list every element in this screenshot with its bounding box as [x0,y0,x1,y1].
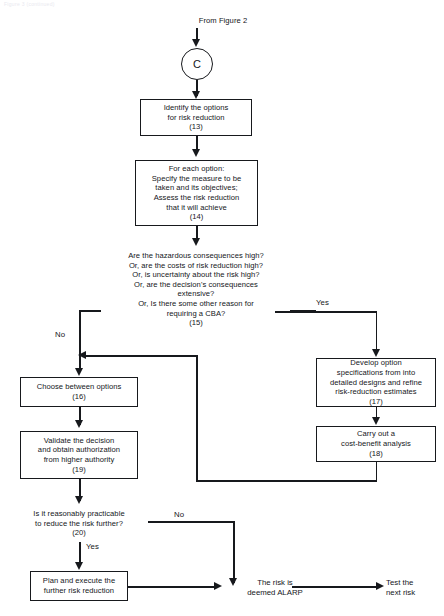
branch-15-no-line [79,310,81,372]
node-14-label: For each option: Specify the measure to … [150,164,243,222]
node-19-label: Validate the decision and obtain authori… [36,436,122,475]
node-13: Identify the options for risk reduction … [140,99,252,136]
n18-feedback-arrowhead [78,351,86,359]
branch-20-yes-label: Yes [86,542,99,551]
n13-to-n14-arrowhead [192,149,200,157]
n18-feedback-top [86,355,197,357]
circle-to-n13-arrowhead [192,91,200,99]
page-header-artifact: Figure 3 (continued) [4,1,55,7]
branch-20-no-label: No [174,510,184,519]
node-16-label: Choose between options (16) [35,382,124,401]
branch-15-yes-hline [275,311,377,313]
branch-15-no-arrowhead [75,368,83,376]
branch-15-yes-vline [376,311,378,354]
entry-arrowhead [192,39,200,47]
n16-to-n19-arrowhead [75,420,83,428]
node-17: Develop option specifications from into … [316,358,436,407]
n19-to-n20-arrowhead [75,496,83,504]
branch-20-no-hline [148,521,234,523]
node-14: For each option: Specify the measure to … [135,160,258,226]
alarp-to-next-line [292,586,380,588]
node-21: Plan and execute the further risk reduct… [30,571,128,601]
node-18: Carry out a cost-benefit analysis (18) [316,426,436,462]
branch-15-yes-label: Yes [316,298,329,307]
n15-left-stub [79,310,101,312]
node-16: Choose between options (16) [20,377,138,407]
alarp-terminal-label: The risk is deemed ALARP [220,578,330,598]
entry-label: From Figure 2 [158,16,288,26]
node-17-label: Develop option specifications from into … [328,358,424,407]
node-21-label: Plan and execute the further risk reduct… [41,576,117,595]
branch-15-yes-arrowhead [372,349,380,357]
n18-feedback-riser [196,355,198,481]
n18-feedback-down [376,462,378,481]
branch-20-yes-arrowhead [75,562,83,570]
node-15-decision-label: Are the hazardous consequences high? Or,… [96,251,296,328]
n14-to-n15-arrowhead [192,238,200,246]
node-18-label: Carry out a cost-benefit analysis (18) [339,429,413,458]
n21-to-alarp-line [128,586,218,588]
alarp-to-next-arrowhead [376,582,384,590]
branch-20-no-vline [233,521,235,583]
node-20-decision-label: Is it reasonably practicable to reduce t… [9,509,149,538]
flowchart-page: Figure 3 (continued) From Figure 2 C Ide… [0,0,444,616]
branch-15-no-label: No [55,330,65,339]
next-risk-terminal-label: Test the next risk [386,578,442,598]
connector-circle-c: C [181,48,213,80]
node-19: Validate the decision and obtain authori… [20,431,138,479]
n17-to-n18-arrowhead [372,417,380,425]
node-13-label: Identify the options for risk reduction … [162,103,231,132]
n18-feedback-bottom [196,480,377,482]
